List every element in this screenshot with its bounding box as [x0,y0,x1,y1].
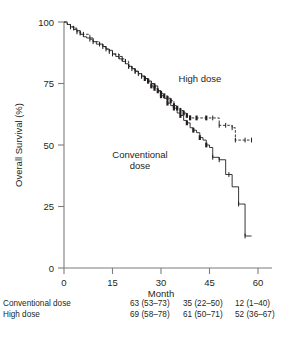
high-dose-curve-label: High dose [179,73,222,84]
x-tick-label-0: 0 [61,277,66,288]
survival-chart-figure: 100 75 50 25 0 0 15 30 45 60 Month Overa… [0,0,286,340]
risk-cell-conventional-30: 63 (53–73) [130,298,170,309]
risk-row-label-high: High dose [3,309,40,320]
high-dose-curve [64,22,252,140]
risk-cell-high-60: 52 (36–67) [235,309,275,320]
table-row: High dose 69 (58–78) 61 (50–71) 52 (36–6… [0,309,286,320]
risk-cell-high-45: 61 (50–71) [183,309,223,320]
risk-cell-conventional-45: 35 (22–50) [183,298,223,309]
x-tick-label-60: 60 [253,277,264,288]
risk-row-label-conventional: Conventional dose [3,298,71,309]
risk-cell-conventional-60: 12 (1–40) [235,298,270,309]
y-tick-label-75: 75 [43,78,54,89]
x-tick-label-45: 45 [204,277,215,288]
conventional-dose-curve-label-line2: dose [130,160,151,171]
conventional-dose-curve-label-line1: Conventional [112,149,167,160]
y-tick-label-100: 100 [38,17,54,28]
high-dose-censor-marks [70,25,251,143]
y-tick-label-25: 25 [43,201,54,212]
table-row: Conventional dose 63 (53–73) 35 (22–50) … [0,298,286,309]
y-tick-label-50: 50 [43,140,54,151]
risk-cell-high-30: 69 (58–78) [130,309,170,320]
survival-curves [64,22,252,238]
x-tick-label-30: 30 [156,277,167,288]
conventional-dose-curve [64,22,252,236]
y-axis-title: Overall Survival (%) [13,103,24,187]
x-tick-label-15: 15 [107,277,118,288]
kaplan-meier-plot: 100 75 50 25 0 0 15 30 45 60 Month Overa… [0,0,286,340]
y-tick-label-0: 0 [49,263,54,274]
risk-table: Conventional dose 63 (53–73) 35 (22–50) … [0,298,286,320]
